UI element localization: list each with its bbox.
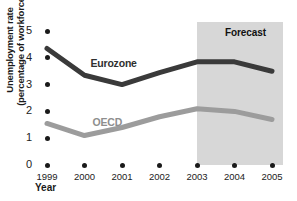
- plot-area: [0, 0, 297, 201]
- unemployment-rate-line-chart: Forecast Unemployment rate (percentage o…: [0, 0, 297, 201]
- series-label-eurozone: Eurozone: [91, 57, 137, 69]
- series-label-oecd: OECD: [93, 116, 123, 128]
- series-line-eurozone: [47, 48, 272, 84]
- series-line-oecd: [47, 109, 272, 136]
